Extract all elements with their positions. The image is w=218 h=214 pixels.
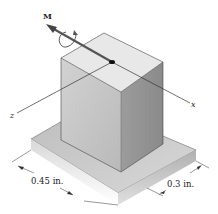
dim-depth-line-a	[190, 168, 198, 173]
x-axis-label: x	[191, 100, 196, 109]
dim-width-arrow-right-icon	[67, 191, 73, 195]
dim-width-label: 0.45 in.	[31, 176, 64, 186]
column-base-moment-diagram: z x M 0.45 in. 0.3 in.	[0, 0, 218, 214]
dim-width-ext-left	[12, 150, 31, 162]
rotation-arrowhead-icon	[73, 30, 78, 35]
z-axis-label: z	[9, 111, 15, 120]
moment-label: M	[43, 11, 52, 21]
dim-depth-label: 0.3 in.	[167, 179, 194, 189]
dim-depth-ext-left	[147, 188, 163, 196]
dim-width-arrow-left-icon	[18, 166, 24, 170]
dim-depth-arrow-right-icon	[197, 165, 202, 170]
moment-arrowhead-icon	[46, 24, 57, 33]
moment-application-point	[109, 60, 115, 64]
